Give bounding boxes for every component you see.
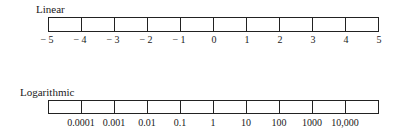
logarithmic-label: 10 (241, 117, 251, 128)
logarithmic-title: Logarithmic (20, 86, 74, 98)
linear-label: 1 (245, 34, 250, 45)
linear-label: 5 (377, 34, 382, 45)
linear-tick (312, 18, 313, 31)
linear-label: − 4 (73, 34, 86, 45)
linear-tick (81, 18, 82, 31)
logarithmic-label: 0.001 (103, 117, 126, 128)
logarithmic-tick (312, 101, 313, 113)
linear-label: − 5 (40, 34, 53, 45)
linear-label: 4 (344, 34, 349, 45)
logarithmic-label: 0.1 (174, 117, 187, 128)
logarithmic-label: 1 (211, 117, 216, 128)
linear-tick (279, 18, 280, 31)
linear-tick (180, 18, 181, 31)
logarithmic-tick (147, 101, 148, 113)
linear-tick (114, 18, 115, 31)
logarithmic-label: 0.0001 (67, 117, 95, 128)
logarithmic-tick (345, 101, 346, 113)
logarithmic-tick (180, 101, 181, 113)
logarithmic-tick (81, 101, 82, 113)
linear-tick (246, 18, 247, 31)
logarithmic-tick (279, 101, 280, 113)
linear-tick (147, 18, 148, 31)
linear-label: 2 (278, 34, 283, 45)
linear-label: − 1 (172, 34, 185, 45)
linear-title: Linear (36, 3, 65, 15)
linear-box (48, 17, 379, 32)
linear-tick (213, 18, 214, 31)
linear-label: − 2 (139, 34, 152, 45)
logarithmic-label: 1000 (302, 117, 322, 128)
linear-label: 0 (212, 34, 217, 45)
logarithmic-label: 10,000 (331, 117, 359, 128)
logarithmic-tick (213, 101, 214, 113)
linear-tick (345, 18, 346, 31)
linear-label: 3 (311, 34, 316, 45)
logarithmic-box (48, 100, 379, 114)
logarithmic-label: 0.01 (138, 117, 156, 128)
linear-label: − 3 (106, 34, 119, 45)
logarithmic-tick (114, 101, 115, 113)
logarithmic-label: 100 (272, 117, 287, 128)
logarithmic-tick (246, 101, 247, 113)
